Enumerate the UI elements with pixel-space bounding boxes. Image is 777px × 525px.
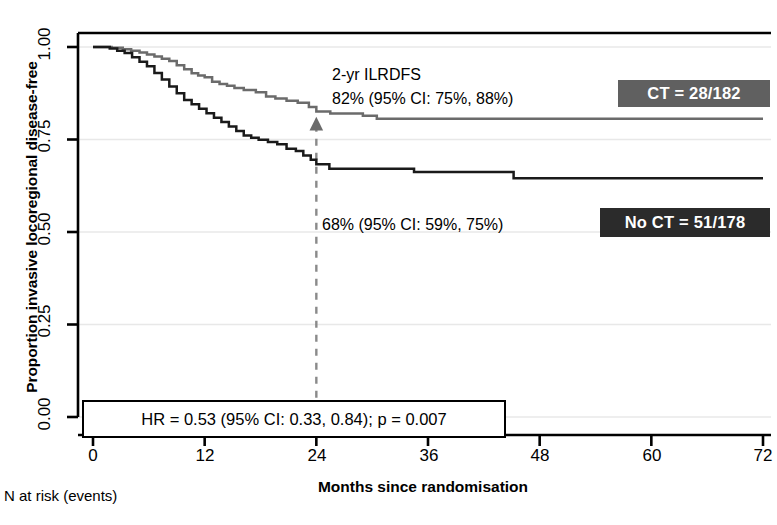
survival-curves <box>93 47 763 178</box>
x-tick-label-24: 24 <box>287 446 347 466</box>
two-year-ilrdfs-heading: 2-yr ILRDFS <box>332 66 421 84</box>
n-at-risk-label: N at risk (events) <box>4 487 117 504</box>
legend-ct-badge: CT = 28/182 <box>618 80 770 107</box>
ct-estimate-annotation: 82% (95% CI: 75%, 88%) <box>332 90 513 108</box>
x-tick-label-48: 48 <box>510 446 570 466</box>
x-tick-label-36: 36 <box>399 446 459 466</box>
y-tick-label-1: 1.00 <box>35 15 55 73</box>
y-tick-label-075: 0.75 <box>35 107 55 165</box>
x-tick-label-60: 60 <box>622 446 682 466</box>
noct-estimate-annotation: 68% (95% CI: 59%, 75%) <box>322 216 503 234</box>
y-tick-label-000: 0.00 <box>35 385 55 443</box>
x-tick-label-0: 0 <box>63 446 123 466</box>
x-tick-label-12: 12 <box>175 446 235 466</box>
y-tick-label-025: 0.25 <box>35 292 55 350</box>
legend-noct-badge: No CT = 51/178 <box>600 208 770 237</box>
hazard-ratio-box: HR = 0.53 (95% CI: 0.33, 0.84); p = 0.00… <box>82 400 506 438</box>
x-tick-label-72: 72 <box>733 446 777 466</box>
y-tick-label-050: 0.50 <box>35 200 55 258</box>
x-axis-title: Months since randomisation <box>183 478 663 496</box>
two-year-marker-icon <box>310 117 324 131</box>
